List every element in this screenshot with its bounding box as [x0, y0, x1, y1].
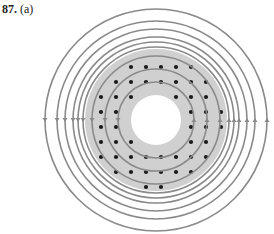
field-dot-icon: [114, 110, 118, 114]
central-hole: [131, 95, 181, 145]
field-dot-icon: [99, 95, 103, 99]
field-dot-icon: [129, 155, 133, 159]
field-dot-icon: [114, 140, 118, 144]
arrow-up-icon: [265, 118, 270, 122]
field-dot-icon: [204, 140, 208, 144]
field-dot-icon: [204, 95, 208, 99]
field-dot-icon: [174, 170, 178, 174]
arrow-up-icon: [232, 118, 237, 122]
arrow-down-icon: [76, 118, 81, 122]
field-dot-icon: [144, 185, 148, 189]
field-dot-icon: [174, 80, 178, 84]
field-dot-icon: [144, 65, 148, 69]
field-dot-icon: [129, 65, 133, 69]
arrow-up-icon: [227, 118, 232, 122]
field-dot-icon: [174, 95, 178, 99]
field-dot-icon: [99, 125, 103, 129]
field-dot-icon: [174, 65, 178, 69]
field-dot-icon: [99, 140, 103, 144]
field-dot-icon: [189, 140, 193, 144]
field-diagram: [0, 0, 274, 234]
field-dot-icon: [114, 125, 118, 129]
field-dot-icon: [129, 80, 133, 84]
field-dot-icon: [114, 95, 118, 99]
arrow-down-icon: [43, 118, 48, 122]
arrow-down-icon: [71, 118, 76, 122]
field-dot-icon: [114, 80, 118, 84]
arrow-down-icon: [81, 118, 86, 122]
arrow-up-icon: [237, 118, 242, 122]
field-dot-icon: [129, 95, 133, 99]
arrow-down-icon: [63, 118, 68, 122]
arrow-down-icon: [55, 118, 60, 122]
field-dot-icon: [189, 95, 193, 99]
field-dot-icon: [129, 170, 133, 174]
field-dot-icon: [129, 140, 133, 144]
field-dot-icon: [174, 155, 178, 159]
field-dot-icon: [114, 155, 118, 159]
arrow-up-icon: [253, 118, 258, 122]
field-dot-icon: [159, 185, 163, 189]
arrow-up-icon: [245, 118, 250, 122]
field-dot-icon: [99, 110, 103, 114]
